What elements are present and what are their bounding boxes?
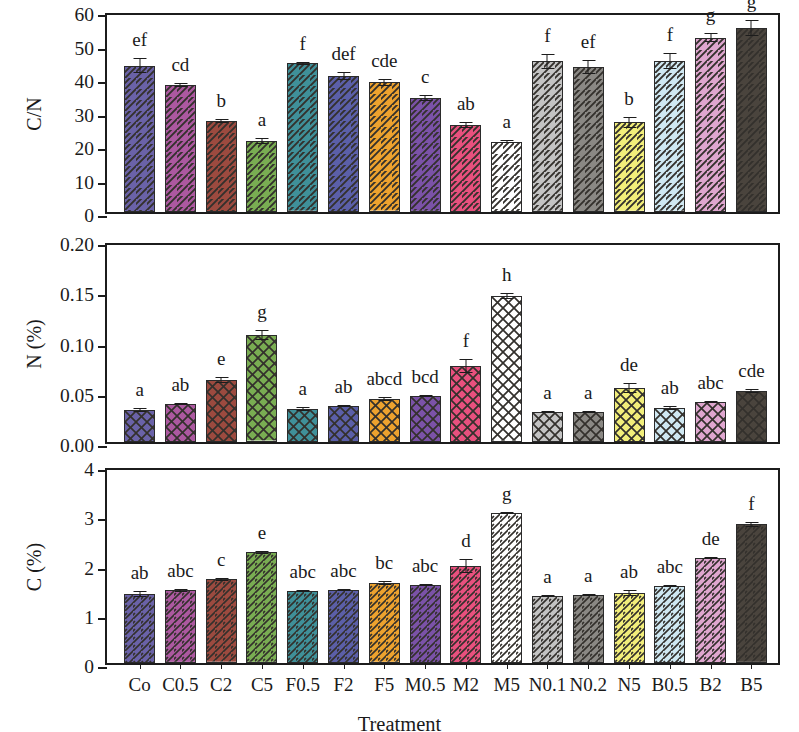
bar-group[interactable]: bcd <box>410 241 441 442</box>
bar[interactable] <box>165 404 196 442</box>
bar[interactable] <box>532 412 563 442</box>
bar[interactable] <box>410 585 441 663</box>
bar[interactable] <box>450 566 481 663</box>
bar-group[interactable]: ab <box>450 11 481 212</box>
bar[interactable] <box>614 593 645 663</box>
bar-group[interactable]: ab <box>165 241 196 442</box>
bar-group[interactable]: a <box>573 241 604 442</box>
bar[interactable] <box>532 61 563 212</box>
bar-group[interactable]: ab <box>654 241 685 442</box>
bar-group[interactable]: f <box>450 241 481 442</box>
bar[interactable] <box>124 410 155 442</box>
bar-series-c: ababcceabcabcbcabcdgaaababcdef <box>107 470 778 663</box>
bar[interactable] <box>369 399 400 442</box>
bar-group[interactable]: b <box>614 11 645 212</box>
bar[interactable] <box>287 409 318 442</box>
bar-group[interactable]: e <box>206 241 237 442</box>
bar[interactable] <box>165 590 196 663</box>
bar-group[interactable]: def <box>328 11 359 212</box>
bar-group[interactable]: cd <box>165 11 196 212</box>
bar-group[interactable]: e <box>246 466 277 663</box>
bar-group[interactable]: f <box>736 466 767 663</box>
bar-group[interactable]: a <box>246 11 277 212</box>
bar-group[interactable]: c <box>410 11 441 212</box>
bar[interactable] <box>654 586 685 663</box>
bar[interactable] <box>450 125 481 212</box>
bar[interactable] <box>287 63 318 212</box>
bar[interactable] <box>736 524 767 663</box>
bar[interactable] <box>736 391 767 442</box>
bar-group[interactable]: g <box>736 11 767 212</box>
bar-group[interactable]: cde <box>369 11 400 212</box>
bar[interactable] <box>124 66 155 212</box>
bar-group[interactable]: a <box>532 466 563 663</box>
bar[interactable] <box>206 380 237 442</box>
bar[interactable] <box>206 579 237 663</box>
bar-group[interactable]: abc <box>328 466 359 663</box>
bar[interactable] <box>614 388 645 442</box>
bar-group[interactable]: ab <box>328 241 359 442</box>
bar[interactable] <box>573 67 604 212</box>
bar-group[interactable]: ab <box>614 466 645 663</box>
bar[interactable] <box>328 406 359 442</box>
bar-group[interactable]: abc <box>287 466 318 663</box>
bar-group[interactable]: abc <box>695 241 726 442</box>
bar[interactable] <box>369 82 400 212</box>
bar[interactable] <box>491 296 522 442</box>
bar-group[interactable]: f <box>654 11 685 212</box>
bar[interactable] <box>491 142 522 212</box>
bar-group[interactable]: g <box>491 466 522 663</box>
bar-group[interactable]: ef <box>124 11 155 212</box>
bar-group[interactable]: a <box>124 241 155 442</box>
bar[interactable] <box>654 408 685 442</box>
bar-group[interactable]: abc <box>654 466 685 663</box>
bar[interactable] <box>246 335 277 442</box>
bar-group[interactable]: a <box>573 466 604 663</box>
bar[interactable] <box>246 552 277 663</box>
error-bar <box>425 395 426 397</box>
bar-group[interactable]: g <box>695 11 726 212</box>
significance-letter: ab <box>457 94 475 113</box>
significance-letter: def <box>331 44 355 63</box>
bar[interactable] <box>654 61 685 212</box>
bar[interactable] <box>328 590 359 663</box>
bar[interactable] <box>450 366 481 442</box>
bar[interactable] <box>695 558 726 663</box>
bar[interactable] <box>410 98 441 212</box>
bar-group[interactable]: abc <box>165 466 196 663</box>
bar-group[interactable]: f <box>532 11 563 212</box>
bar-group[interactable]: bc <box>369 466 400 663</box>
bar-group[interactable]: b <box>206 11 237 212</box>
bar[interactable] <box>573 595 604 663</box>
bar-group[interactable]: c <box>206 466 237 663</box>
bar[interactable] <box>695 38 726 212</box>
bar-group[interactable]: abcd <box>369 241 400 442</box>
bar[interactable] <box>246 141 277 212</box>
bar[interactable] <box>287 591 318 663</box>
bar[interactable] <box>491 513 522 663</box>
bar-group[interactable]: de <box>695 466 726 663</box>
bar[interactable] <box>614 122 645 212</box>
bar-group[interactable]: a <box>491 11 522 212</box>
bar[interactable] <box>736 28 767 212</box>
bar[interactable] <box>695 402 726 442</box>
bar[interactable] <box>165 85 196 212</box>
bar[interactable] <box>410 396 441 442</box>
bar-group[interactable]: h <box>491 241 522 442</box>
bar-group[interactable]: cde <box>736 241 767 442</box>
bar-group[interactable]: d <box>450 466 481 663</box>
bar-group[interactable]: g <box>246 241 277 442</box>
bar-group[interactable]: abc <box>410 466 441 663</box>
bar-group[interactable]: ef <box>573 11 604 212</box>
bar-group[interactable]: ab <box>124 466 155 663</box>
bar-group[interactable]: a <box>532 241 563 442</box>
bar[interactable] <box>532 596 563 663</box>
bar[interactable] <box>206 121 237 212</box>
bar-group[interactable]: de <box>614 241 645 442</box>
bar[interactable] <box>124 594 155 663</box>
bar[interactable] <box>369 583 400 663</box>
bar-group[interactable]: a <box>287 241 318 442</box>
bar[interactable] <box>573 412 604 442</box>
bar-group[interactable]: f <box>287 11 318 212</box>
bar[interactable] <box>328 76 359 212</box>
